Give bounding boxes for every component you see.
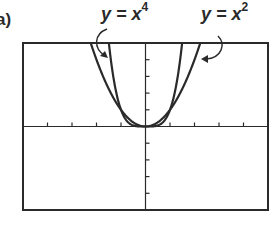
- graph-window: [0, 0, 275, 229]
- graph-figure: a) y = x4 y = x2: [0, 0, 275, 229]
- annotation-arrows: [97, 29, 222, 63]
- arrow-head-x2: [201, 55, 208, 63]
- arrow-to-x2-curve: [206, 36, 222, 59]
